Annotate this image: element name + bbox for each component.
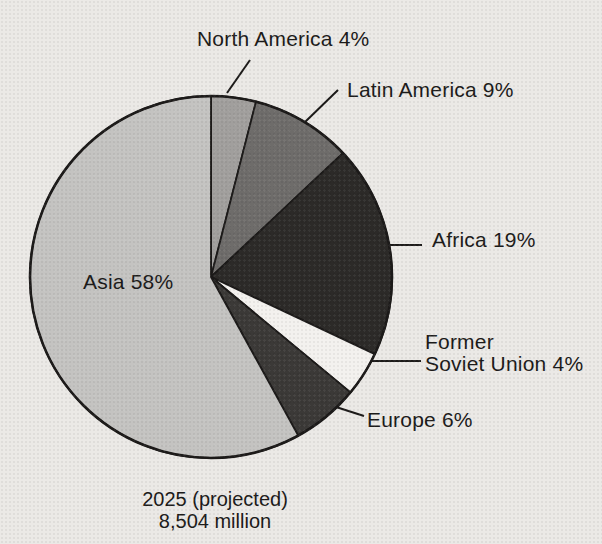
label-former-soviet-union-line1: Former xyxy=(425,331,583,353)
chart-caption: 2025 (projected) 8,504 million xyxy=(0,488,430,532)
caption-year: 2025 (projected) xyxy=(0,488,430,510)
label-europe: Europe 6% xyxy=(367,408,473,432)
label-africa: Africa 19% xyxy=(432,228,536,252)
leader-line-europe xyxy=(336,407,364,416)
label-former-soviet-union-line2: Soviet Union 4% xyxy=(425,353,583,375)
leader-line-north-america xyxy=(227,60,250,93)
leader-line-latin-america xyxy=(305,90,338,122)
caption-total: 8,504 million xyxy=(0,510,430,532)
label-latin-america: Latin America 9% xyxy=(347,78,514,102)
label-north-america: North America 4% xyxy=(197,27,369,51)
label-asia: Asia 58% xyxy=(83,270,173,294)
scanned-figure-page: North America 4% Latin America 9% Africa… xyxy=(0,0,602,544)
label-former-soviet-union: Former Soviet Union 4% xyxy=(425,331,583,375)
